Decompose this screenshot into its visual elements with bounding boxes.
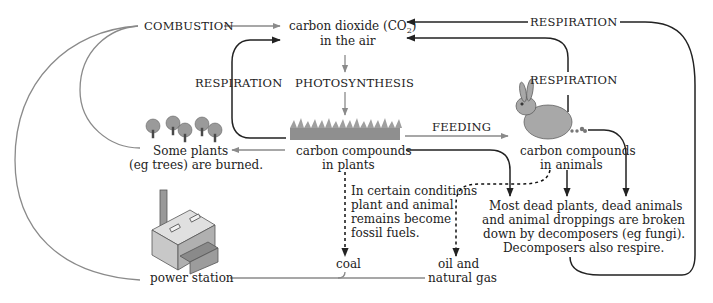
label-plants-line2: in plants <box>322 158 375 172</box>
label-combustion: COMBUSTION <box>144 19 234 33</box>
label-fossil-line1: In certain conditions <box>351 184 477 198</box>
label-decomp-line1: Most dead plants, dead animals <box>489 199 682 213</box>
label-burned-line1: Some plants <box>153 144 228 158</box>
label-co2-line1: carbon dioxide (CO2) <box>289 19 417 35</box>
label-animals-line2: in animals <box>540 158 603 172</box>
arrow-animal-respiration-upper <box>407 38 568 72</box>
grass-icon <box>290 118 402 140</box>
carbon-cycle-diagram: COMBUSTION carbon dioxide (CO2) in the a… <box>0 0 713 303</box>
label-respiration-right: RESPIRATION <box>530 73 617 87</box>
label-feeding: FEEDING <box>432 120 491 134</box>
label-respiration-left: RESPIRATION <box>195 76 282 90</box>
arrow-burned-plants-to-combustion <box>80 26 140 148</box>
label-power-station: power station <box>150 271 234 285</box>
trees-icon <box>146 116 222 142</box>
label-oil-line1: oil and <box>438 257 480 271</box>
label-respiration-top: RESPIRATION <box>530 15 617 29</box>
label-fossil-line4: fossil fuels. <box>351 226 420 240</box>
label-fossil-line3: remains become <box>351 212 451 226</box>
label-plants-line1: carbon compounds <box>296 144 412 158</box>
label-animals-line1: carbon compounds <box>520 144 636 158</box>
rabbit-icon <box>516 79 572 139</box>
droppings-icon <box>570 127 587 133</box>
label-decomp-line2: and animal droppings are broken <box>482 213 685 227</box>
arrow-coal-joint <box>338 272 345 278</box>
label-burned-line2: (eg trees) are burned. <box>129 158 263 172</box>
factory-icon <box>152 190 218 274</box>
arrow-power-station-to-combustion <box>15 26 140 280</box>
label-photosynthesis: PHOTOSYNTHESIS <box>295 76 414 90</box>
label-co2-line2: in the air <box>320 34 376 48</box>
label-coal: coal <box>336 257 361 271</box>
label-oil-line2: natural gas <box>428 271 497 285</box>
label-decomp-line4: Decomposers also respire. <box>503 241 664 255</box>
label-decomp-line3: down by decomposers (eg fungi). <box>483 227 685 241</box>
label-fossil-line2: plant and animal <box>351 198 454 212</box>
